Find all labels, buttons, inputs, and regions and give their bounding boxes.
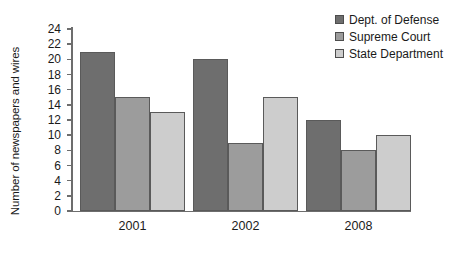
legend-item: Dept. of Defense [335, 12, 443, 27]
y-axis-tick-label: 10 [0, 128, 61, 142]
bar [150, 112, 185, 211]
legend-swatch-icon [335, 32, 344, 41]
y-axis-tick-label: 0 [0, 204, 61, 218]
x-axis-label-2008: 2008 [345, 219, 373, 233]
bar [115, 97, 150, 211]
chart-legend: Dept. of DefenseSupreme CourtState Depar… [335, 12, 443, 61]
y-axis-tick-label: 8 [0, 143, 61, 157]
y-axis-tick-label: 24 [0, 22, 61, 36]
legend-item: State Department [335, 46, 443, 61]
y-axis-tick-label: 4 [0, 174, 61, 188]
legend-label: Dept. of Defense [349, 14, 439, 26]
y-axis-tick-label: 2 [0, 189, 61, 203]
y-axis-tick-label: 14 [0, 98, 61, 112]
y-axis-tick-label: 12 [0, 113, 61, 127]
y-axis-tick-label: 18 [0, 68, 61, 82]
bar-chart: Number of newspapers and wires 024681012… [0, 0, 472, 262]
x-axis-label-2002: 2002 [232, 219, 260, 233]
bar [306, 120, 341, 211]
y-axis-tick-label: 20 [0, 52, 61, 66]
bar [193, 59, 228, 211]
legend-label: State Department [349, 48, 443, 60]
bar [228, 143, 263, 211]
y-axis-tick-label: 16 [0, 83, 61, 97]
legend-label: Supreme Court [349, 31, 430, 43]
bar [376, 135, 411, 211]
legend-swatch-icon [335, 15, 344, 24]
bar [341, 150, 376, 211]
legend-swatch-icon [335, 49, 344, 58]
legend-item: Supreme Court [335, 29, 443, 44]
y-axis-tick-label: 6 [0, 159, 61, 173]
bar [80, 52, 115, 211]
y-axis-tick-label: 22 [0, 37, 61, 51]
bar [263, 97, 298, 211]
x-axis-label-2001: 2001 [119, 219, 147, 233]
